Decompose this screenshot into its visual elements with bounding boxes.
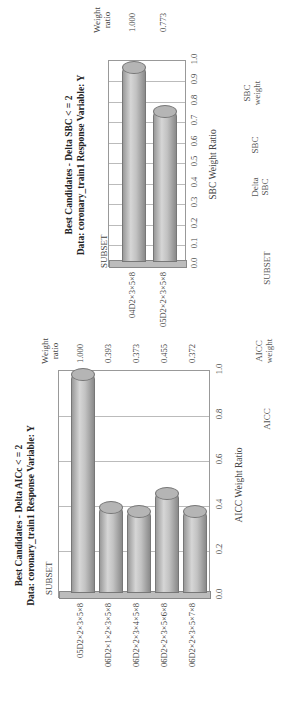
aicc-title-1: Best Candidates - Delta AICc < = 2 [14, 330, 25, 701]
aicc-row-label: 05D2×2×3×5×8 [75, 603, 85, 661]
sbc-table-header: Delta SBC [250, 172, 270, 202]
aicc-row-ratio: 0.373 [131, 344, 141, 363]
aicc-plot-area [58, 370, 210, 598]
aicc-row-label: 06D2×2×3×5×7×8 [187, 603, 197, 681]
aicc-row-ratio: 0.372 [187, 344, 197, 363]
sbc-tick: 0.1 [189, 238, 199, 249]
aicc-bar-2 [127, 510, 151, 593]
sbc-title-2: Data: coronary_train1 Response Variable:… [76, 0, 87, 330]
sbc-tick: 0.5 [189, 156, 199, 167]
sbc-ratio-header-line1: Weight [92, 2, 102, 38]
rotated-page: Best Candidates - Delta AICc < = 2 Data:… [0, 0, 281, 701]
aicc-subset-header: SUBSET [44, 561, 54, 595]
bar-cap [71, 368, 95, 381]
sbc-table-header: SUBSET [262, 246, 272, 290]
bar-cap [155, 487, 179, 500]
aicc-tick: 0.4 [214, 499, 224, 510]
bar-cap [127, 505, 151, 518]
sbc-row-label: 04D2×3×5×8 [127, 272, 137, 330]
bar-cap [153, 105, 177, 118]
aicc-ratio-header-line1: Weight [40, 333, 50, 369]
aicc-row-label: 06D2×2×3×5×6×8 [159, 603, 169, 681]
aicc-tick: 0.6 [214, 454, 224, 465]
sbc-axis-title: SBC Weight Ratio [208, 62, 218, 267]
aicc-bar-3 [155, 492, 179, 593]
sbc-tick: 1.0 [189, 54, 199, 65]
aicc-chart: Best Candidates - Delta AICc < = 2 Data:… [0, 330, 281, 701]
aicc-table-header: AICC weight [254, 331, 274, 371]
aicc-ratio-header: Weight ratio [40, 333, 60, 369]
sbc-tick: 0.0 [189, 258, 199, 269]
aicc-tick: 0.2 [214, 544, 224, 555]
aicc-tick: 0.0 [214, 589, 224, 600]
sbc-title-1: Best Candidates - Delta SBC < = 2 [64, 0, 75, 330]
aicc-row-label: 06D2×1×2×3×5×8 [103, 603, 113, 681]
aicc-row-ratio: 0.393 [103, 344, 113, 363]
sbc-tick: 0.6 [189, 136, 199, 147]
sbc-tick: 0.3 [189, 197, 199, 208]
aicc-bar-4 [183, 510, 207, 593]
aicc-tick: 1.0 [214, 364, 224, 375]
aicc-row-ratio: 1.000 [75, 344, 85, 363]
sbc-tick: 0.2 [189, 218, 199, 229]
gridline [109, 81, 185, 82]
aicc-table-header: AICC [262, 399, 272, 439]
aicc-ratio-header-line2: ratio [50, 333, 60, 369]
sbc-table-header: SBC [250, 130, 260, 160]
sbc-row-ratio: 1.000 [127, 13, 137, 32]
sbc-row-label: 05D2×2×3×5×8 [158, 272, 168, 340]
bar-cap [183, 505, 207, 518]
sbc-tick: 0.7 [189, 115, 199, 126]
sbc-plot-area [108, 60, 186, 267]
sbc-tick: 0.8 [189, 95, 199, 106]
aicc-tick: 0.8 [214, 409, 224, 420]
gridline [109, 102, 185, 103]
sbc-tick: 0.9 [189, 74, 199, 85]
aicc-row-label: 06D2×2×3×4×5×8 [131, 603, 141, 681]
aicc-bar-0 [71, 373, 95, 593]
aicc-row-ratio: 0.455 [159, 344, 169, 363]
aicc-title-2: Data: coronary_train1 Response Variable:… [26, 330, 37, 701]
sbc-ratio-header-line2: ratio [102, 2, 112, 38]
sbc-table-header: SBC weight [242, 76, 262, 110]
sbc-ratio-header: Weight ratio [92, 2, 112, 38]
aicc-bar-1 [99, 506, 123, 593]
sbc-chart: Best Candidates - Delta SBC < = 2 Data: … [0, 0, 281, 330]
sbc-row-ratio: 0.773 [158, 13, 168, 32]
bar-cap [122, 61, 146, 74]
bar-cap [99, 501, 123, 514]
aicc-axis-title: AICC Weight Ratio [234, 372, 244, 598]
sbc-bar-1 [153, 110, 177, 262]
sbc-bar-0 [122, 66, 146, 262]
sbc-tick: 0.4 [189, 177, 199, 188]
